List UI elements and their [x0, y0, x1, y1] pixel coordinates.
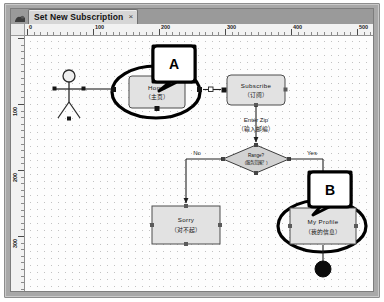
- ruler-tick-minor: [21, 51, 24, 52]
- ruler-tick-minor: [21, 196, 24, 197]
- node-range-decision-label-cn: （服务范围？）: [242, 159, 270, 166]
- ruler-tick-major: [18, 170, 24, 171]
- ruler-tick-minor: [238, 32, 239, 35]
- ruler-tick-minor: [199, 32, 200, 35]
- ruler-tick-major: [225, 29, 226, 35]
- document-tab-title: Set New Subscription: [34, 12, 123, 22]
- ruler-label-v: 100: [12, 107, 18, 116]
- document-tab[interactable]: Set New Subscription ×: [28, 9, 138, 24]
- ruler-tick-minor: [139, 32, 140, 35]
- ruler-tick-minor: [284, 32, 285, 35]
- ruler-label-h: 500: [359, 24, 368, 30]
- edge-enter-zip[interactable]: Enter Zip （输入邮编）: [238, 106, 274, 142]
- ruler-tick-minor: [21, 117, 24, 118]
- node-subscribe[interactable]: Subscribe （订阅）: [222, 75, 288, 107]
- ruler-tick-minor: [21, 78, 24, 79]
- ruler-tick-minor: [21, 111, 24, 112]
- ruler-corner: [11, 24, 25, 36]
- node-my-profile[interactable]: My Profile （我的信息）: [288, 208, 358, 244]
- ruler-tick-minor: [47, 32, 48, 35]
- ruler-tick-minor: [21, 157, 24, 158]
- ruler-tick-minor: [251, 32, 252, 35]
- close-icon[interactable]: ×: [128, 13, 133, 21]
- node-subscribe-label: Subscribe: [241, 82, 272, 89]
- ruler-tick-minor: [179, 32, 180, 35]
- ruler-tick-minor: [324, 32, 325, 35]
- ruler-tick-minor: [192, 32, 193, 35]
- horizontal-ruler[interactable]: 0100200300400500: [25, 24, 373, 36]
- ruler-tick-minor: [21, 45, 24, 46]
- ruler-tick-minor: [21, 262, 24, 263]
- ruler-tick-minor: [119, 32, 120, 35]
- edge-home-to-subscribe[interactable]: [203, 87, 221, 92]
- ruler-tick-minor: [185, 32, 186, 35]
- ruler-tick-minor: [364, 32, 365, 35]
- ruler-tick-minor: [80, 32, 81, 35]
- ruler-tick-minor: [21, 183, 24, 184]
- ruler-tick-minor: [21, 163, 24, 164]
- ruler-tick-minor: [311, 32, 312, 35]
- ruler-tick-minor: [298, 32, 299, 35]
- diagram-canvas[interactable]: Home （主页） Subscribe （订阅）: [25, 36, 373, 291]
- ruler-label-h: 300: [227, 24, 236, 30]
- node-sorry-label-cn: （对不起）: [171, 226, 201, 234]
- ruler-tick-minor: [21, 216, 24, 217]
- ruler-tick-major: [18, 236, 24, 237]
- ruler-tick-minor: [166, 32, 167, 35]
- tab-bar: Set New Subscription ×: [11, 9, 373, 24]
- ruler-tick-major: [27, 29, 28, 35]
- actor-stick-figure[interactable]: [53, 70, 86, 121]
- callout-a-letter: A: [169, 56, 179, 72]
- ruler-tick-minor: [126, 32, 127, 35]
- ruler-tick-minor: [21, 210, 24, 211]
- node-range-decision[interactable]: Range? （服务范围？）: [221, 143, 291, 175]
- node-sorry-label: Sorry: [178, 216, 195, 223]
- ruler-tick-minor: [271, 32, 272, 35]
- ruler-tick-minor: [21, 71, 24, 72]
- ruler-tick-minor: [21, 249, 24, 250]
- ruler-tick-minor: [21, 223, 24, 224]
- ruler-tick-minor: [60, 32, 61, 35]
- ruler-tick-minor: [21, 256, 24, 257]
- ruler-tick-minor: [86, 32, 87, 35]
- ruler-tick-minor: [152, 32, 153, 35]
- node-end[interactable]: [315, 261, 331, 277]
- ruler-tick-minor: [172, 32, 173, 35]
- ruler-tick-minor: [21, 84, 24, 85]
- ruler-tick-minor: [205, 32, 206, 35]
- ruler-tick-minor: [212, 32, 213, 35]
- edge-enter-zip-label-cn: （输入邮编）: [238, 125, 274, 133]
- ruler-tick-major: [93, 29, 94, 35]
- ruler-label-h: 200: [161, 24, 170, 30]
- ruler-tick-minor: [67, 32, 68, 35]
- ruler-tick-minor: [21, 276, 24, 277]
- edge-no-label: No: [193, 150, 201, 156]
- ruler-tick-minor: [21, 289, 24, 290]
- ruler-label-h: 100: [95, 24, 104, 30]
- ruler-tick-minor: [21, 124, 24, 125]
- ruler-tick-minor: [40, 32, 41, 35]
- vertical-ruler[interactable]: 100200300400: [11, 36, 25, 291]
- ruler-tick-minor: [146, 32, 147, 35]
- edge-no-branch[interactable]: No: [186, 150, 222, 203]
- ruler-tick-minor: [21, 144, 24, 145]
- callout-b-letter: B: [325, 182, 335, 198]
- ruler-tick-major: [159, 29, 160, 35]
- ruler-tick-minor: [21, 130, 24, 131]
- ruler-tick-minor: [113, 32, 114, 35]
- ruler-tick-minor: [21, 190, 24, 191]
- node-sorry[interactable]: Sorry （对不起）: [150, 204, 222, 246]
- app-icon: [14, 11, 27, 22]
- ruler-tick-minor: [106, 32, 107, 35]
- ruler-tick-minor: [344, 32, 345, 35]
- ruler-tick-minor: [337, 32, 338, 35]
- ruler-tick-minor: [73, 32, 74, 35]
- ruler-tick-minor: [218, 32, 219, 35]
- ruler-tick-minor: [53, 32, 54, 35]
- edge-enter-zip-label: Enter Zip: [244, 117, 269, 123]
- ruler-label-v: 200: [12, 173, 18, 182]
- application-window: Set New Subscription × 0100200300400500 …: [4, 3, 380, 298]
- ruler-tick-major: [357, 29, 358, 35]
- ruler-tick-minor: [21, 282, 24, 283]
- ruler-tick-minor: [278, 32, 279, 35]
